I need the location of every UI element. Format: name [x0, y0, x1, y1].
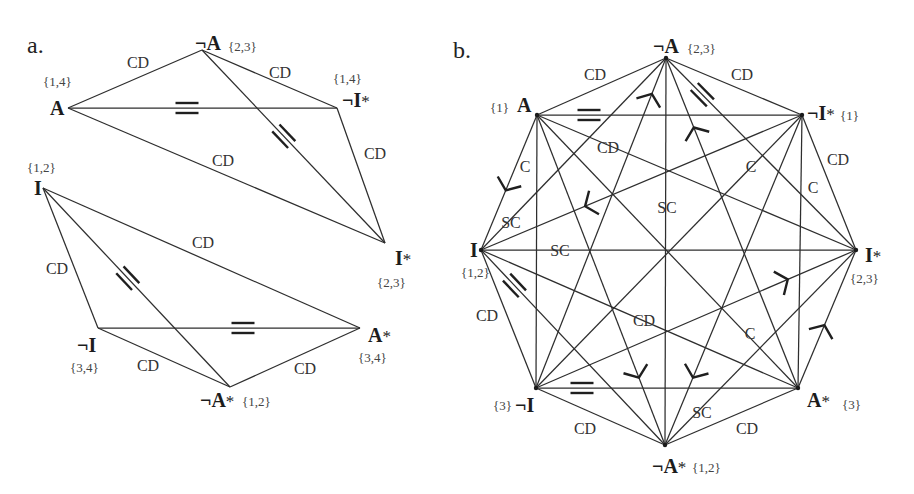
equality-bar — [124, 266, 140, 283]
vertex-I: I{1,2} — [27, 160, 56, 199]
edge-A-notIstar — [68, 103, 337, 113]
star-icon: * — [873, 247, 882, 266]
edge-notAstar-A — [537, 115, 665, 445]
relation-label: SC — [692, 404, 712, 421]
vertex-name: ¬I — [342, 89, 361, 111]
vertex-name: ¬I — [77, 334, 96, 356]
arrowhead-icon — [809, 325, 832, 339]
edge-A-Istar: CD — [68, 108, 385, 243]
relation-label: CD — [476, 307, 498, 324]
vertex-notAstar: ¬A*{1,2} — [200, 389, 271, 411]
relation-label: CD — [269, 64, 291, 81]
edge-line — [230, 328, 360, 387]
edge-line — [98, 328, 230, 387]
vertex-A: A{1,4} — [43, 74, 72, 119]
relation-label: CD — [597, 139, 619, 156]
edge-line — [798, 115, 802, 388]
edge-line — [537, 115, 665, 445]
edge-line — [337, 108, 385, 243]
vertex-index-set: {2,3} — [850, 271, 879, 286]
vertex-label: ¬A* — [200, 389, 234, 411]
relation-label: CD — [294, 360, 316, 377]
vertex-name: ¬I — [515, 394, 534, 416]
relation-label: CD — [192, 234, 214, 251]
vertex-index-set: {3,4} — [358, 350, 387, 365]
vertex-dot — [854, 248, 858, 252]
edge-notAstar-I — [481, 250, 665, 445]
panel-a: a.CDCDCDCDCDCDCDCDA{1,4}¬A{2,3}¬I*{1,4}I… — [27, 32, 411, 411]
vertex-label: ¬A* — [652, 455, 686, 477]
relation-label: SC — [550, 242, 570, 259]
vertex-name: I — [34, 177, 42, 199]
vertex-index-set: {1} — [840, 108, 859, 123]
star-icon: * — [226, 392, 235, 411]
relation-label: SC — [501, 214, 521, 231]
vertex-index-set: {2,3} — [228, 39, 257, 54]
vertex-label: ¬A — [195, 32, 221, 54]
vertices: A{1,4}¬A{2,3}¬I*{1,4}I*{2,3}I{1,2}¬I{3,4… — [27, 32, 411, 411]
vertex-A: A{1} — [490, 94, 539, 117]
vertex-index-set: {2,3} — [377, 275, 406, 290]
vertex-Astar: A*{3} — [796, 386, 861, 412]
vertex-notA: ¬A{2,3} — [195, 32, 257, 54]
figure: a.CDCDCDCDCDCDCDCDA{1,4}¬A{2,3}¬I*{1,4}I… — [0, 0, 914, 494]
edge-notI-A — [536, 115, 537, 388]
vertex-notIstar: ¬I*{1,4} — [333, 71, 370, 111]
relation-label: CD — [127, 54, 149, 71]
arrowhead-icon — [686, 127, 710, 141]
vertex-Istar: I*{2,3} — [377, 247, 411, 290]
vertex-index-set: {3} — [493, 398, 512, 413]
vertex-index-set: {1} — [490, 100, 509, 115]
vertex-notAstar: ¬A*{1,2} — [652, 443, 721, 477]
vertex-label: I* — [865, 244, 881, 266]
vertex-index-set: {1,4} — [43, 74, 72, 89]
vertex-name: A — [807, 389, 822, 411]
relation-label: CD — [827, 151, 849, 168]
vertex-notI: ¬I{3} — [493, 386, 538, 416]
vertex-notIstar: ¬I*{1} — [800, 102, 859, 124]
arrowhead-icon — [685, 364, 709, 378]
arrowhead-icon — [624, 364, 648, 378]
vertex-dot — [479, 248, 483, 252]
vertex-notI: ¬I{3,4} — [70, 334, 99, 375]
vertex-dot — [663, 443, 667, 447]
vertex-name: A — [368, 324, 383, 346]
vertex-name: A — [50, 97, 65, 119]
star-icon: * — [403, 250, 412, 269]
vertex-name: I — [470, 239, 478, 261]
vertex-name: I — [395, 247, 403, 269]
edge-line — [536, 115, 537, 388]
vertex-label: ¬A — [653, 35, 679, 57]
edge-line — [665, 58, 666, 445]
relation-label: CD — [584, 66, 606, 83]
vertex-name: ¬I — [807, 102, 826, 124]
vertex-dot — [534, 386, 538, 390]
vertex-index-set: {1,2} — [692, 460, 721, 475]
vertex-index-set: {3,4} — [70, 360, 99, 375]
arrowhead-icon — [498, 176, 522, 190]
relation-label: CD — [633, 312, 655, 329]
star-icon: * — [821, 392, 830, 411]
panel-label: b. — [453, 37, 471, 63]
relation-label: C — [520, 158, 531, 175]
equality-bar — [116, 273, 132, 290]
relation-label: C — [745, 325, 756, 342]
vertex-name: ¬A — [652, 455, 678, 477]
vertex-label: A — [517, 94, 532, 116]
vertex-label: A — [50, 97, 65, 119]
vertex-Astar: A*{3,4} — [358, 324, 391, 365]
vertex-Istar: I*{2,3} — [850, 244, 881, 286]
vertex-index-set: {1,2} — [27, 160, 56, 175]
equality-bar — [510, 274, 526, 291]
edge-notA-notIstar: CD — [202, 50, 337, 108]
vertex-label: ¬I* — [342, 89, 370, 111]
vertex-name: A — [517, 94, 532, 116]
vertex-index-set: {3} — [842, 397, 861, 412]
edge-line — [536, 250, 856, 388]
relation-label: CD — [46, 260, 68, 277]
relation-label: SC — [657, 199, 677, 216]
arrowhead-icon — [585, 191, 599, 214]
edge-line — [481, 250, 665, 445]
edge-notA-notIstar: CD — [666, 58, 802, 115]
vertex-label: ¬I — [515, 394, 534, 416]
